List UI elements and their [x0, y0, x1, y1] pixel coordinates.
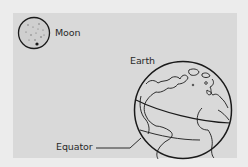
diagram-artwork: [0, 0, 248, 167]
earth-globe-icon: [135, 62, 232, 160]
equator-label: Equator: [56, 141, 93, 152]
equator-leader-line: [96, 138, 141, 148]
moon-label: Moon: [55, 27, 80, 38]
earth-label: Earth: [130, 55, 155, 66]
moon-icon: [19, 18, 50, 49]
